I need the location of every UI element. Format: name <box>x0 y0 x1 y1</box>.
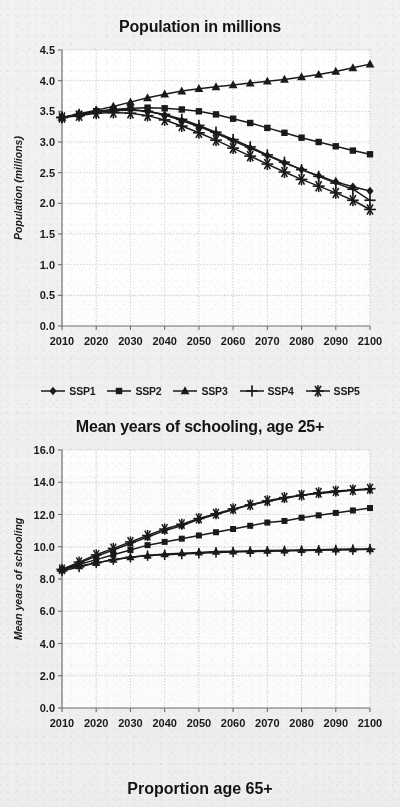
asterisk-stroke <box>164 523 166 534</box>
plus-v-glyph <box>181 549 183 560</box>
square-marker <box>213 111 219 117</box>
asterisk-stroke <box>318 487 320 498</box>
population-plot-area: 0.00.51.01.52.02.53.03.54.04.52010202020… <box>0 36 400 384</box>
asterisk-stroke <box>284 492 286 503</box>
legend-label: SSP2 <box>135 385 161 397</box>
asterisk-stroke <box>198 127 200 139</box>
legend-item-ssp2[interactable]: SSP2 <box>106 384 161 398</box>
plus-v-glyph <box>198 548 200 559</box>
square-marker <box>367 151 373 157</box>
square-marker <box>316 512 322 518</box>
y-tick-label: 1.5 <box>40 228 55 240</box>
schooling-chart-svg: 0.02.04.06.08.010.012.014.016.0201020202… <box>0 436 400 756</box>
square-glyph <box>264 520 270 526</box>
legend-label: SSP5 <box>334 385 360 397</box>
y-tick-label: 4.5 <box>40 44 55 56</box>
y-tick-label: 12.0 <box>34 509 55 521</box>
square-glyph <box>333 143 339 149</box>
square-marker <box>333 143 339 149</box>
x-tick-label: 2070 <box>255 717 279 729</box>
square-marker <box>179 106 185 112</box>
square-marker <box>281 130 287 136</box>
legend-item-ssp4[interactable]: SSP4 <box>239 384 294 398</box>
asterisk-stroke <box>267 495 269 506</box>
population-figure: Population in millions 0.00.51.01.52.02.… <box>0 18 400 398</box>
plus-v-glyph <box>113 554 115 565</box>
square-marker <box>106 384 132 398</box>
y-tick-label: 4.0 <box>40 638 55 650</box>
square-marker <box>162 539 168 545</box>
asterisk-stroke <box>113 107 115 119</box>
square-glyph <box>350 507 356 513</box>
square-marker <box>116 388 122 394</box>
y-axis-title: Mean years of schooling <box>12 517 24 640</box>
square-marker <box>145 542 151 548</box>
square-glyph <box>179 536 185 542</box>
plus-v-glyph <box>284 546 286 557</box>
plus-v-glyph <box>130 552 132 563</box>
x-tick-label: 2040 <box>152 717 176 729</box>
x-tick-label: 2040 <box>152 335 176 347</box>
square-marker <box>333 510 339 516</box>
square-marker <box>179 536 185 542</box>
square-glyph <box>213 111 219 117</box>
legend-label: SSP4 <box>268 385 294 397</box>
y-tick-label: 2.0 <box>40 197 55 209</box>
asterisk-stroke <box>301 490 303 501</box>
asterisk-stroke <box>215 134 217 146</box>
legend-item-ssp3[interactable]: SSP3 <box>172 384 227 398</box>
square-glyph <box>333 510 339 516</box>
y-tick-label: 0.0 <box>40 320 55 332</box>
y-tick-label: 3.0 <box>40 136 55 148</box>
asterisk-stroke <box>232 503 234 514</box>
y-tick-label: 4.0 <box>40 75 55 87</box>
square-glyph <box>367 505 373 511</box>
diamond-marker <box>50 387 57 396</box>
y-tick-label: 14.0 <box>34 476 55 488</box>
asterisk-stroke <box>301 173 303 185</box>
x-tick-label: 2090 <box>324 717 348 729</box>
square-marker <box>367 505 373 511</box>
x-tick-label: 2010 <box>50 717 74 729</box>
x-tick-label: 2060 <box>221 335 245 347</box>
asterisk-stroke <box>130 107 132 119</box>
y-tick-label: 0.0 <box>40 702 55 714</box>
square-glyph <box>230 115 236 121</box>
asterisk-stroke <box>317 385 319 397</box>
square-marker <box>264 520 270 526</box>
x-tick-label: 2020 <box>84 335 108 347</box>
square-glyph <box>230 526 236 532</box>
square-marker <box>281 518 287 524</box>
y-axis-title: Population (millions) <box>12 136 24 240</box>
proportion-age-65-title: Proportion age 65+ <box>0 780 400 798</box>
square-glyph <box>247 120 253 126</box>
y-tick-label: 16.0 <box>34 444 55 456</box>
x-tick-label: 2030 <box>118 717 142 729</box>
square-marker <box>247 523 253 529</box>
asterisk-stroke <box>215 508 217 519</box>
y-tick-label: 0.5 <box>40 289 55 301</box>
asterisk-stroke <box>61 564 63 575</box>
legend-item-ssp5[interactable]: SSP5 <box>305 384 360 398</box>
square-glyph <box>281 518 287 524</box>
asterisk-stroke <box>335 187 337 199</box>
square-glyph <box>316 512 322 518</box>
square-glyph <box>264 125 270 131</box>
asterisk-stroke <box>181 120 183 132</box>
square-glyph <box>145 542 151 548</box>
asterisk-stroke <box>181 519 183 530</box>
square-marker <box>213 529 219 535</box>
legend-item-ssp1[interactable]: SSP1 <box>40 384 95 398</box>
square-glyph <box>247 523 253 529</box>
square-marker <box>230 115 236 121</box>
asterisk-stroke <box>95 549 97 560</box>
legend-label: SSP3 <box>201 385 227 397</box>
population-chart-svg: 0.00.51.01.52.02.53.03.54.04.52010202020… <box>0 36 400 384</box>
schooling-figure: Mean years of schooling, age 25+ 0.02.04… <box>0 418 400 756</box>
x-tick-label: 2050 <box>187 335 211 347</box>
y-tick-label: 2.0 <box>40 670 55 682</box>
asterisk-stroke <box>352 194 354 206</box>
asterisk-stroke <box>284 166 286 178</box>
plus-v-glyph <box>232 547 234 558</box>
plus-v-glyph <box>249 546 251 557</box>
